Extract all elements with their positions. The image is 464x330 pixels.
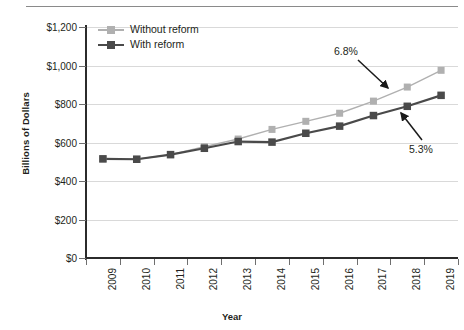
data-point-marker (99, 155, 107, 163)
data-point-marker (404, 103, 412, 111)
data-point-marker (302, 118, 309, 125)
data-point-marker (370, 112, 378, 120)
series-line-without-reform (103, 70, 441, 159)
annotation-arrow-with-reform (401, 113, 422, 140)
legend-label-with-reform: With reform (130, 37, 184, 52)
series-lines (0, 0, 464, 330)
data-point-marker (336, 122, 344, 130)
chart-figure: Billions of Dollars Year $0$200$400$600$… (0, 0, 464, 330)
data-point-marker (370, 98, 377, 105)
legend-item-without-reform: Without reform (98, 22, 199, 37)
data-point-marker (438, 67, 445, 74)
data-point-marker (234, 138, 242, 146)
data-point-marker (302, 130, 310, 138)
data-point-marker (437, 92, 445, 100)
data-point-marker (201, 145, 209, 153)
chart-legend: Without reform With reform (98, 22, 199, 52)
legend-label-without-reform: Without reform (130, 22, 199, 37)
annotation-arrow-without-reform (358, 60, 388, 88)
legend-swatch-with-reform-icon (98, 39, 124, 50)
annotation-growth-with-reform: 5.3% (409, 143, 433, 155)
legend-swatch-without-reform-icon (98, 24, 124, 35)
data-point-marker (268, 138, 276, 146)
data-point-marker (336, 110, 343, 117)
data-point-marker (133, 155, 141, 163)
annotation-growth-without-reform: 6.8% (334, 45, 358, 57)
data-point-marker (404, 84, 411, 91)
legend-item-with-reform: With reform (98, 37, 199, 52)
data-point-marker (167, 151, 175, 159)
data-point-marker (269, 126, 276, 133)
